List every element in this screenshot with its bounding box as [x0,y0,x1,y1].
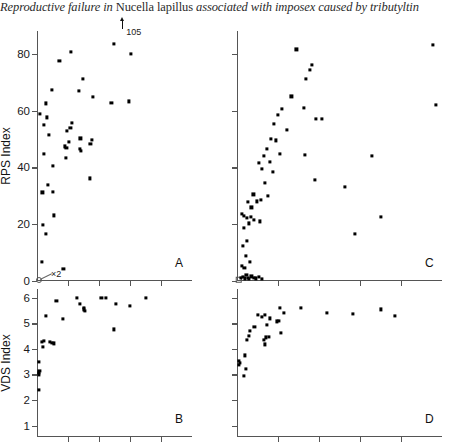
data-point [247,222,250,225]
data-point [379,215,382,218]
data-point [70,51,73,54]
data-point [273,123,276,126]
data-point [78,302,81,305]
figure-four-panel-scatter: 020406080RPS IndexA105×2C123456VDS Index… [0,15,449,442]
x-tick [319,437,320,442]
x-tick [319,281,320,286]
x-tick [161,437,162,442]
data-point [326,311,329,314]
y-tick-label: 6 [24,292,30,304]
data-point [248,261,251,264]
x-tick [99,437,100,442]
data-point [257,162,260,165]
x-tick [401,281,402,286]
data-point [40,260,43,263]
data-point [290,95,293,98]
data-point [61,318,64,321]
data-point [277,319,280,322]
data-point [279,332,282,335]
data-point [70,121,73,124]
data-point [244,255,247,258]
data-point [52,342,55,345]
data-point [244,367,247,370]
y-tick [232,298,237,299]
y-tick [232,374,237,375]
data-point [271,170,274,173]
y-tick [32,400,37,401]
data-point [250,206,253,209]
data-point [66,129,69,132]
data-point [38,369,41,372]
panel-letter-a: A [175,256,183,270]
data-point [39,113,42,116]
data-point [260,167,263,170]
data-point [241,244,244,247]
data-point [253,326,256,329]
y-axis-line [37,31,38,281]
panel-letter-c: C [425,256,434,270]
data-point [353,233,356,236]
data-point [50,88,53,91]
y-tick-label: 80 [17,48,30,60]
y-axis-title: RPS Index [0,127,13,184]
data-point [248,334,251,337]
y-tick [232,426,237,427]
x-tick [161,281,162,286]
data-point [63,145,66,148]
data-point [320,117,323,120]
data-point [278,307,281,310]
x-tick [130,281,131,286]
panel-c: C [237,31,442,281]
data-point [283,311,286,314]
data-point [260,277,263,280]
panel-letter-d: D [425,412,434,426]
running-head: Reproductive failure in Nucella lapillus… [0,0,449,15]
y-tick-label: 20 [17,218,30,230]
data-point [37,388,40,391]
data-point [276,113,279,116]
data-point [269,137,272,140]
data-point [262,154,265,157]
data-point [42,345,45,348]
data-point [89,142,92,145]
x-tick [360,281,361,286]
data-point [299,306,302,309]
data-point [434,103,437,106]
data-point [47,133,50,136]
data-point [286,128,289,131]
data-point [52,164,55,167]
data-point [128,100,131,103]
y-tick [232,349,237,350]
panel-letter-b: B [175,412,183,426]
data-point [253,218,256,221]
data-point [112,328,115,331]
plot-area-c [237,31,442,281]
data-point [303,153,306,156]
data-point [308,69,311,72]
panel-b: 123456VDS IndexB [37,289,192,437]
data-point [83,309,86,312]
x-tick [99,281,100,286]
data-point [69,126,72,129]
data-point [268,317,271,320]
data-point [42,152,45,155]
data-point [114,302,117,305]
data-point [371,154,374,157]
data-point [41,191,44,194]
data-point [295,48,298,51]
data-point [281,108,284,111]
y-tick [32,323,37,324]
data-point [343,186,346,189]
off-scale-arrow-icon [122,19,123,29]
data-point [43,340,46,343]
data-point [91,95,94,98]
plot-area-b: 123456 [37,289,192,437]
data-point [265,323,268,326]
data-point [245,239,248,242]
data-point [265,147,268,150]
data-point [44,102,47,105]
data-point [278,153,281,156]
data-point [100,296,103,299]
x-tick [130,437,131,442]
data-point [79,137,82,140]
